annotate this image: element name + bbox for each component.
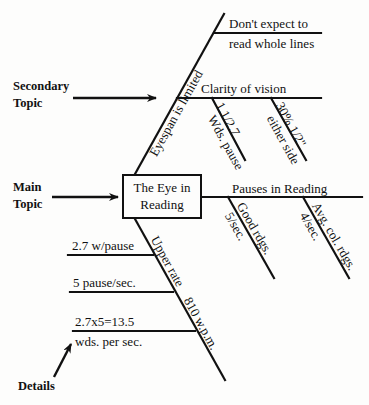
dont-expect-line1: Don't expect to [229,17,308,30]
lower-detail1: 2.7 w/pause [72,239,134,252]
main-topic-box: The Eye in Reading [122,174,202,219]
dont-expect-line2: read whole lines [229,37,314,50]
lower-detail3-line2: wds. per sec. [75,335,142,348]
main-topic-label-2: Topic [13,198,42,211]
fishbone-diagram: The Eye in Reading Secondary Topic Main … [0,0,369,405]
main-box-line1: The Eye in [133,180,190,196]
main-box-line2: Reading [133,197,190,213]
lower-detail2: 5 pause/sec. [73,276,136,289]
details-arrow [54,344,71,377]
clarity-label: Clarity of vision [201,82,286,95]
secondary-topic-label-1: Secondary [13,80,69,93]
main-topic-label-1: Main [13,181,41,194]
pauses-label: Pauses in Reading [232,182,327,195]
secondary-topic-label-2: Topic [13,97,42,110]
lower-detail3-line1: 2.7x5=13.5 [75,315,134,328]
details-label: Details [18,380,55,393]
